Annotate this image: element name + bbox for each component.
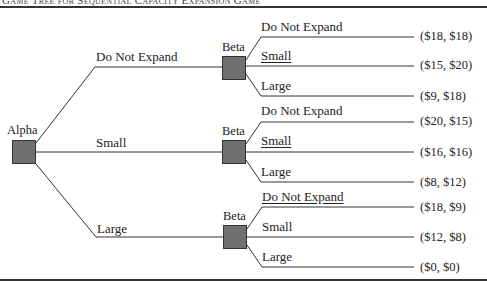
beta-label-1: Beta [222, 41, 245, 54]
payoff-1-2: ($15, $20) [420, 59, 472, 72]
payoff-1-1: ($18, $18) [420, 30, 472, 43]
payoff-2-1: ($20, $15) [420, 115, 472, 128]
payoff-3-2: ($12, $8) [420, 231, 466, 244]
edge-alpha-large [36, 164, 223, 237]
beta2-move-small: Small [261, 134, 291, 147]
beta-decision-node-1 [222, 56, 246, 80]
payoff-2-2: ($16, $16) [420, 146, 472, 159]
beta-decision-node-3 [223, 225, 247, 249]
payoff-2-3: ($8, $12) [420, 176, 466, 189]
alpha-move-large: Large [97, 222, 127, 235]
payoff-3-3: ($0, $0) [420, 261, 460, 274]
alpha-label: Alpha [7, 124, 38, 137]
beta-decision-node-2 [222, 140, 246, 164]
beta3-move-do-not-expand: Do Not Expand [262, 190, 344, 203]
beta-label-3: Beta [223, 210, 246, 223]
alpha-decision-node [12, 140, 36, 164]
beta1-move-do-not-expand: Do Not Expand [261, 20, 343, 33]
beta-label-2: Beta [222, 125, 245, 138]
beta2-move-do-not-expand: Do Not Expand [261, 104, 343, 117]
beta3-move-small: Small [262, 220, 292, 233]
beta1-move-small: Small [261, 49, 291, 62]
beta2-move-large: Large [261, 165, 291, 178]
beta1-move-large: Large [261, 79, 291, 92]
edge-alpha-do-not-expand [36, 67, 223, 143]
alpha-move-do-not-expand: Do Not Expand [96, 50, 178, 63]
alpha-move-small: Small [96, 136, 126, 149]
beta3-move-large: Large [262, 250, 292, 263]
payoff-1-3: ($9, $18) [420, 90, 466, 103]
payoff-3-1: ($18, $9) [420, 201, 466, 214]
